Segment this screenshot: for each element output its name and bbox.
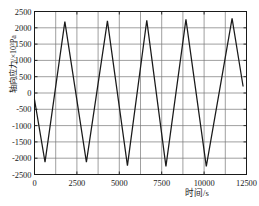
x-tick-label: 5000 — [111, 179, 128, 188]
x-tick-labels: 02500500075001000012500 — [32, 179, 257, 188]
x-tick-label: 2500 — [69, 179, 86, 188]
y-tick-label: -1000 — [12, 122, 32, 131]
y-axis-label: 轴向应力/×10³Pa — [6, 14, 18, 114]
y-tick-label: -2500 — [12, 171, 32, 180]
data-series-layer — [35, 18, 244, 166]
y-tick-label: 0 — [27, 89, 31, 98]
x-axis-label: 时间/s — [185, 186, 209, 198]
grid-layer — [35, 12, 247, 175]
y-tick-label: -2000 — [12, 154, 32, 163]
y-tick-label: -500 — [16, 105, 31, 114]
y-tick-label: 500 — [19, 73, 32, 82]
chart-figure: -2500-2000-1500-1000-5000500100015002000… — [0, 0, 259, 206]
x-tick-label: 7500 — [153, 179, 170, 188]
data-series-line — [35, 18, 244, 166]
chart-plot-svg: -2500-2000-1500-1000-5000500100015002000… — [0, 0, 259, 206]
x-tick-label: 12500 — [236, 179, 257, 188]
y-tick-label: -1500 — [12, 138, 32, 147]
x-tick-label: 0 — [32, 179, 36, 188]
